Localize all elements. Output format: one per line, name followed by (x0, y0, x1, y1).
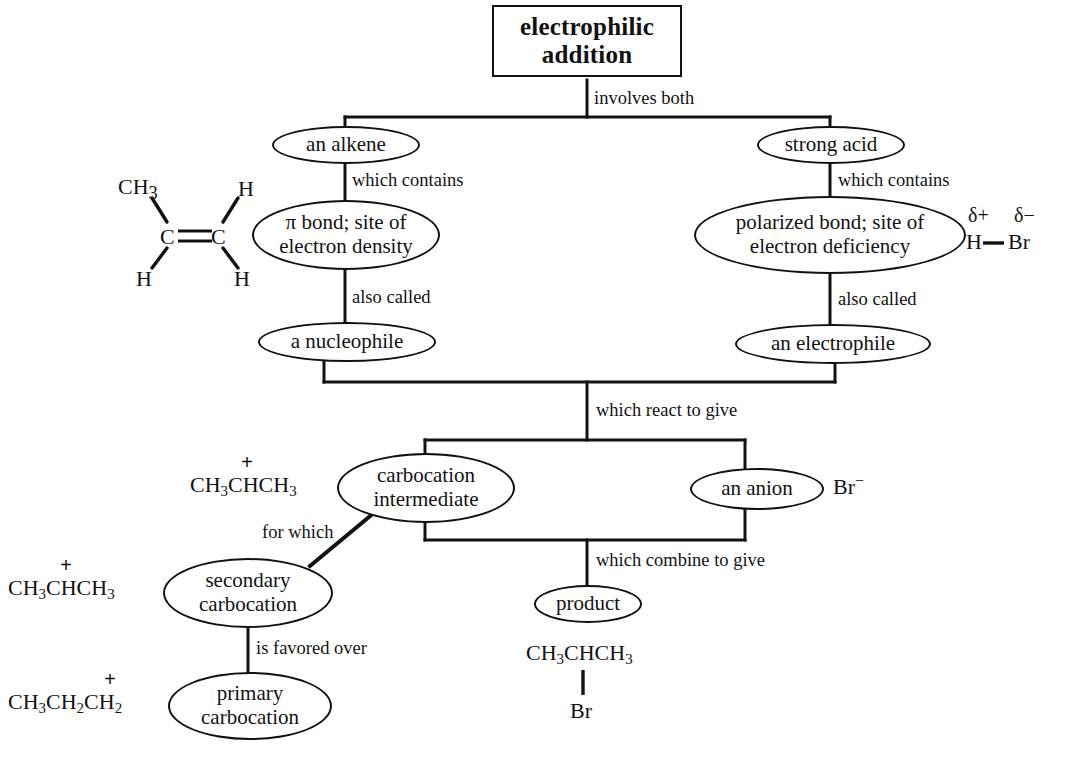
node-primary-carbocation-line1: primary (201, 682, 299, 706)
node-carbocation-intermediate-line1: carbocation (374, 464, 479, 488)
hbr-atom-h: H (966, 229, 982, 255)
node-product[interactable]: product (534, 585, 642, 623)
link-label-also-called-left: also called (352, 287, 431, 308)
concept-map-canvas: electrophilic addition involves both an … (0, 0, 1067, 778)
node-carbocation-intermediate[interactable]: carbocation intermediate (337, 453, 515, 523)
node-secondary-carbocation-line2: carbocation (199, 593, 297, 617)
node-pi-bond[interactable]: π bond; site of electron density (252, 200, 440, 270)
alkene-atom-ch3: CH3 (118, 174, 158, 204)
node-product-label: product (556, 592, 620, 616)
node-nucleophile[interactable]: a nucleophile (258, 322, 436, 362)
node-secondary-carbocation[interactable]: secondary carbocation (163, 558, 333, 628)
node-polarized-bond[interactable]: polarized bond; site of electron deficie… (694, 196, 966, 274)
node-an-alkene-label: an alkene (306, 133, 386, 157)
alkene-double-bond (178, 231, 212, 241)
link-label-which-react-to-give: which react to give (596, 400, 737, 421)
alkene-atom-h-top-right: H (238, 176, 254, 202)
node-nucleophile-label: a nucleophile (291, 330, 404, 354)
node-electrophile[interactable]: an electrophile (735, 324, 931, 364)
hbr-delta-minus: δ− (1014, 204, 1035, 227)
node-electrophile-label: an electrophile (771, 332, 895, 356)
node-an-alkene[interactable]: an alkene (272, 126, 420, 164)
link-label-which-contains-right: which contains (838, 170, 950, 191)
isopropyl-cation-top-formula: CH3CHCH3 (190, 473, 297, 500)
node-polarized-bond-line1: polarized bond; site of (736, 211, 924, 235)
product-structure-substituent: Br (570, 698, 592, 724)
propyl-cation-primary-formula: CH3CH2CH2 (8, 690, 122, 717)
alkene-atom-h-bottom-right: H (234, 266, 250, 292)
root-title-line1: electrophilic addition (494, 13, 680, 69)
alkene-atom-carbon-left: C (160, 224, 175, 250)
node-secondary-carbocation-line1: secondary (199, 569, 297, 593)
node-primary-carbocation[interactable]: primary carbocation (168, 672, 332, 740)
node-pi-bond-line1: π bond; site of (279, 211, 413, 235)
alkene-atom-h-bottom-left: H (136, 266, 152, 292)
node-anion[interactable]: an anion (690, 468, 824, 510)
link-label-involves-both: involves both (594, 88, 694, 109)
node-strong-acid[interactable]: strong acid (757, 126, 905, 164)
bromide-anion-formula: Br− (833, 472, 864, 500)
node-polarized-bond-line2: electron deficiency (736, 235, 924, 259)
link-label-is-favored-over: is favored over (256, 638, 367, 659)
link-label-also-called-right: also called (838, 289, 917, 310)
node-carbocation-intermediate-line2: intermediate (374, 488, 479, 512)
link-label-for-which: for which (262, 522, 333, 543)
node-primary-carbocation-line2: carbocation (201, 706, 299, 730)
hbr-atom-br: Br (1008, 229, 1030, 255)
hbr-delta-plus: δ+ (968, 204, 989, 227)
node-root-title[interactable]: electrophilic addition (492, 5, 682, 77)
product-structure-main: CH3CHCH3 (526, 641, 633, 668)
node-pi-bond-line2: electron density (279, 235, 413, 259)
node-strong-acid-label: strong acid (785, 133, 878, 157)
isopropyl-cation-secondary-formula: CH3CHCH3 (8, 576, 115, 603)
link-label-which-contains-left: which contains (352, 170, 464, 191)
node-anion-label: an anion (721, 477, 793, 501)
link-label-which-combine-to-give: which combine to give (596, 550, 765, 571)
alkene-atom-carbon-right: C (211, 224, 226, 250)
